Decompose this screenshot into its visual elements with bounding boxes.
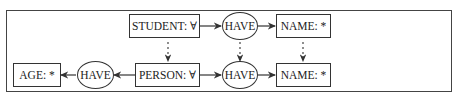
node-have-bottom-label: HAVE bbox=[225, 69, 255, 81]
node-age-label: AGE: * bbox=[19, 69, 54, 81]
node-name-bottom: NAME: * bbox=[276, 63, 331, 87]
node-have-left: HAVE bbox=[77, 61, 114, 89]
node-have-left-label: HAVE bbox=[80, 69, 110, 81]
node-name-bottom-label: NAME: * bbox=[281, 69, 327, 81]
node-student: STUDENT: ∀ bbox=[129, 14, 200, 38]
node-student-label: STUDENT: ∀ bbox=[132, 19, 197, 33]
node-name-top-label: NAME: * bbox=[281, 20, 327, 32]
node-age: AGE: * bbox=[13, 63, 61, 87]
node-have-bottom: HAVE bbox=[222, 61, 258, 89]
node-have-top-label: HAVE bbox=[225, 20, 255, 32]
node-have-top: HAVE bbox=[222, 12, 258, 40]
node-name-top: NAME: * bbox=[276, 14, 331, 38]
node-person-label: PERSON: ∀ bbox=[139, 68, 196, 82]
node-person: PERSON: ∀ bbox=[135, 63, 200, 87]
